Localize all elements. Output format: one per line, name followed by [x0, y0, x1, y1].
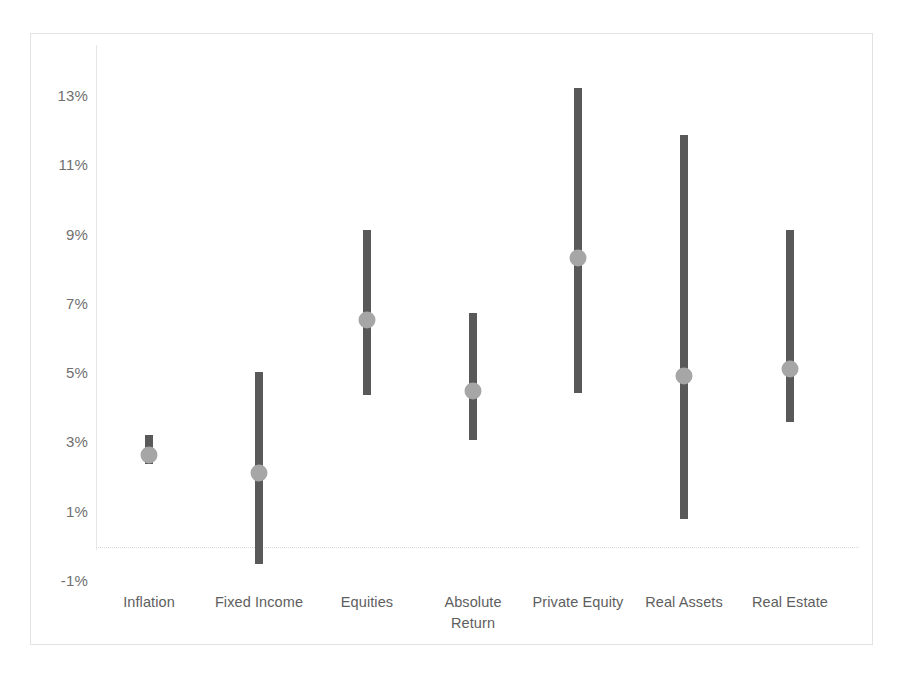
- range-bar[interactable]: [574, 88, 582, 393]
- range-bar[interactable]: [786, 230, 794, 422]
- expected-value-dot[interactable]: [251, 464, 268, 481]
- expected-value-dot[interactable]: [359, 312, 376, 329]
- expected-value-dot[interactable]: [570, 249, 587, 266]
- expected-value-dot[interactable]: [465, 383, 482, 400]
- expected-value-dot[interactable]: [141, 447, 158, 464]
- expected-value-dot[interactable]: [782, 360, 799, 377]
- chart-frame: [30, 33, 873, 645]
- expected-value-dot[interactable]: [676, 367, 693, 384]
- range-bar[interactable]: [680, 135, 688, 520]
- range-bar[interactable]: [469, 313, 477, 439]
